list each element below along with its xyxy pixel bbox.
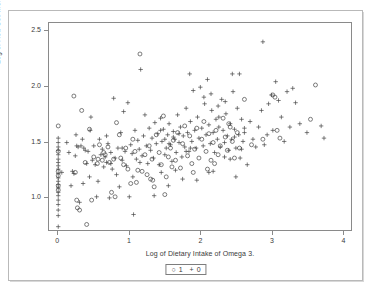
data-point-plus: [245, 163, 249, 167]
x-tick-label: 4: [334, 237, 352, 244]
data-point-plus: [242, 130, 246, 134]
data-point-plus: [120, 158, 124, 162]
data-point-circle: [190, 162, 194, 166]
data-point-circle: [96, 157, 100, 161]
data-point-plus: [279, 115, 283, 119]
data-point-circle: [56, 124, 60, 128]
data-point-plus: [200, 126, 204, 130]
y-tick-label: 2.5: [17, 26, 41, 33]
data-point-plus: [276, 98, 280, 102]
data-point-circle: [75, 198, 79, 202]
data-point-plus: [239, 147, 243, 151]
data-point-plus: [174, 150, 178, 154]
data-point-plus: [94, 195, 98, 199]
data-point-circle: [213, 162, 217, 166]
data-point-plus: [158, 128, 162, 132]
data-point-plus: [282, 139, 286, 143]
data-point-plus: [237, 133, 241, 137]
data-point-plus: [56, 202, 60, 206]
data-point-plus: [97, 137, 101, 141]
data-point-circle: [129, 182, 133, 186]
data-point-plus: [202, 102, 206, 106]
data-point-plus: [116, 146, 120, 150]
x-tick-mark: [200, 231, 201, 235]
data-point-plus: [248, 119, 252, 123]
data-point-plus: [148, 148, 152, 152]
data-point-plus: [150, 136, 154, 140]
data-point-plus: [96, 179, 100, 183]
data-point-plus: [56, 140, 60, 144]
data-point-plus: [191, 88, 195, 92]
data-point-plus: [218, 145, 222, 149]
data-point-plus: [219, 97, 223, 101]
data-point-plus: [208, 141, 212, 145]
data-point-plus: [223, 99, 227, 103]
data-point-plus: [151, 156, 155, 160]
data-point-circle: [72, 94, 76, 98]
data-point-plus: [178, 125, 182, 129]
data-point-plus: [89, 115, 93, 119]
x-tick-mark: [57, 231, 58, 235]
data-point-circle: [152, 185, 156, 189]
data-point-plus: [147, 126, 151, 130]
data-point-plus: [184, 106, 188, 110]
data-point-circle: [309, 117, 313, 121]
data-point-plus: [74, 133, 78, 137]
data-point-plus: [265, 133, 269, 137]
data-point-plus: [173, 168, 177, 172]
data-point-plus: [207, 123, 211, 127]
data-point-plus: [119, 130, 123, 134]
data-point-plus: [234, 146, 238, 150]
data-point-plus: [161, 127, 165, 131]
data-point-plus: [259, 108, 263, 112]
data-point-plus: [262, 143, 266, 147]
x-tick-mark: [272, 231, 273, 235]
legend-entry: ○1: [171, 266, 182, 273]
data-point-plus: [215, 137, 219, 141]
data-point-plus: [153, 120, 157, 124]
data-point-plus: [166, 184, 170, 188]
data-point-plus: [221, 128, 225, 132]
data-point-circle: [221, 116, 225, 120]
data-point-circle: [90, 198, 94, 202]
data-point-plus: [152, 194, 156, 198]
data-point-plus: [291, 86, 295, 90]
data-point-circle: [134, 180, 138, 184]
data-point-plus: [230, 72, 234, 76]
data-point-plus: [67, 150, 71, 154]
data-point-plus: [293, 101, 297, 105]
data-point-plus: [137, 147, 141, 151]
data-point-circle: [136, 168, 140, 172]
data-point-plus: [136, 138, 140, 142]
data-point-circle: [204, 149, 208, 153]
data-point-plus: [138, 160, 142, 164]
data-point-plus: [266, 102, 270, 106]
data-point-plus: [254, 145, 258, 149]
data-point-circle: [131, 137, 135, 141]
data-point-plus: [228, 122, 232, 126]
data-point-plus: [238, 156, 242, 160]
data-point-plus: [181, 134, 185, 138]
data-point-circle: [209, 158, 213, 162]
data-point-plus: [229, 137, 233, 141]
data-point-plus: [192, 128, 196, 132]
data-point-circle: [186, 154, 190, 158]
data-point-plus: [241, 139, 245, 143]
data-point-plus: [79, 144, 83, 148]
data-point-circle: [115, 121, 119, 125]
data-point-circle: [138, 52, 142, 56]
data-point-plus: [202, 95, 206, 99]
y-tick-label: 1.0: [17, 193, 41, 200]
data-point-plus: [99, 153, 103, 157]
data-point-plus: [211, 169, 215, 173]
data-point-plus: [217, 115, 221, 119]
data-point-plus: [127, 195, 131, 199]
data-point-plus: [231, 89, 235, 93]
data-point-plus: [209, 92, 213, 96]
data-point-circle: [80, 108, 84, 112]
data-point-circle: [197, 156, 201, 160]
data-point-circle: [275, 128, 279, 132]
data-point-circle: [232, 156, 236, 160]
data-point-circle: [261, 137, 265, 141]
x-tick-mark: [129, 231, 130, 235]
